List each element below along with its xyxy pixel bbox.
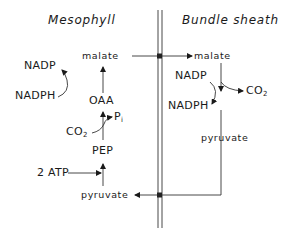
bundle-sheath-co2: CO2 — [246, 85, 268, 100]
mesophyll-nadp: NADP — [24, 60, 56, 72]
transporter-square-bottom — [157, 193, 162, 198]
bundle-sheath-nadp: NADP — [175, 70, 207, 82]
mesophyll-co2: CO2 — [66, 126, 88, 141]
nadph-oxidation-arrow — [58, 70, 68, 97]
mesophyll-title: Mesophyll — [48, 14, 116, 26]
nadp-reduction-arrow — [210, 82, 216, 104]
pathway-diagram — [0, 0, 287, 234]
bundle-sheath-malate: malate — [194, 50, 231, 62]
bundle-sheath-pyruvate: pyruvate — [201, 132, 248, 144]
mesophyll-atp: 2 ATP — [37, 167, 69, 179]
pyruvate-transport-arrow — [135, 110, 221, 198]
mesophyll-pi: Pi — [114, 111, 123, 126]
mesophyll-malate: malate — [82, 50, 119, 62]
mesophyll-oaa: OAA — [89, 95, 114, 107]
mesophyll-nadph: NADPH — [15, 90, 56, 102]
bundle-sheath-title: Bundle sheath — [182, 14, 279, 26]
malate-transport-arrow — [132, 54, 192, 59]
mesophyll-pep: PEP — [92, 145, 113, 157]
transporter-square-top — [157, 54, 162, 59]
co2-release-arrow — [221, 82, 243, 91]
mesophyll-pyruvate: pyruvate — [81, 189, 128, 201]
bundle-sheath-nadph: NADPH — [168, 100, 209, 112]
co2-fixation-arrow — [92, 117, 112, 133]
